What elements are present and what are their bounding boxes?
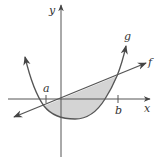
- curve-g-label: g: [124, 30, 131, 43]
- tick-a-label: a: [43, 82, 50, 95]
- area-between-curves-diagram: y x a b g f: [0, 0, 159, 161]
- line-f-label: f: [147, 56, 154, 69]
- y-axis-label: y: [48, 4, 56, 17]
- x-axis-label: x: [144, 102, 151, 115]
- tick-b-label: b: [115, 104, 122, 117]
